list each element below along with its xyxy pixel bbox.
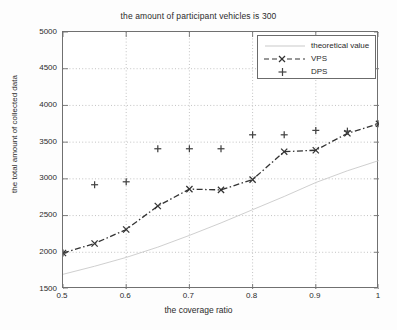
y-tick-label: 2500 [23,210,57,219]
legend-label: VPS [311,54,327,63]
data-series-layer [63,120,379,274]
y-tick-label: 5000 [23,27,57,36]
y-tick-label: 4000 [23,100,57,109]
x-tick-label: 0.9 [300,291,330,300]
x-tick-label: 1 [363,291,393,300]
legend-label: DPS [311,67,327,76]
y-tick-label: 2000 [23,247,57,256]
y-tick-label: 3500 [23,137,57,146]
legend-marker-icon [263,39,307,53]
x-tick-label: 0.5 [47,291,77,300]
series-line-theoretical-value [63,161,379,275]
legend-entry: DPS [258,65,377,79]
legend-marker-icon [263,65,307,79]
y-axis-label: the total amount of collected data [10,34,19,234]
legend-label: theoretical value [311,41,369,50]
legend-entry: VPS [258,52,377,66]
y-tick-label: 3000 [23,173,57,182]
x-tick-label: 0.8 [237,291,267,300]
legend-marker-icon [263,52,307,66]
x-tick-label: 0.6 [110,291,140,300]
chart-legend: theoretical valueVPSDPS [257,35,376,79]
series-line-vps [63,124,379,253]
legend-entry: theoretical value [258,39,377,53]
x-axis-label: the coverage ratio [0,305,397,315]
chart-title: the amount of participant vehicles is 30… [0,11,397,21]
y-tick-label: 4500 [23,63,57,72]
chart-figure: the amount of participant vehicles is 30… [0,0,397,330]
x-tick-label: 0.7 [173,291,203,300]
